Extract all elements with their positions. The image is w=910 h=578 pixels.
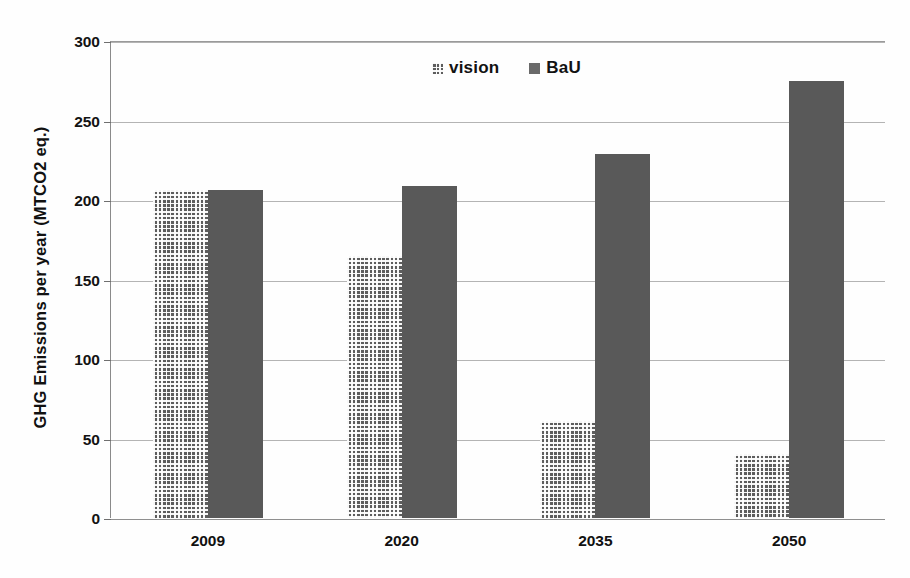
x-tick-label-2020: 2020 — [384, 532, 418, 550]
y-axis-title: GHG Emissions per year (MTCO2 eq.) — [31, 68, 50, 488]
y-tick-label-0: 0 — [91, 510, 100, 528]
y-tick-label-50: 50 — [83, 431, 100, 449]
ghg-emissions-bar-chart: GHG Emissions per year (MTCO2 eq.) 05010… — [0, 0, 910, 578]
plot-area: 050100150200250300 2009202020352050 — [110, 41, 885, 518]
bar-bau-2050 — [789, 81, 844, 518]
y-tick-label-100: 100 — [74, 351, 100, 369]
x-tick-label-2050: 2050 — [772, 532, 806, 550]
chart-legend: vision BaU — [432, 58, 581, 78]
bar-bau-2035 — [595, 154, 650, 518]
y-tick-label-300: 300 — [74, 33, 100, 51]
y-tick-mark-100 — [104, 360, 111, 361]
y-tick-mark-300 — [104, 42, 111, 43]
gridline-300 — [111, 42, 885, 43]
y-tick-mark-50 — [104, 440, 111, 441]
y-tick-mark-150 — [104, 281, 111, 282]
y-tick-label-150: 150 — [74, 272, 100, 290]
legend-swatch-bau-icon — [529, 63, 540, 74]
legend-item-vision: vision — [432, 58, 499, 78]
legend-swatch-vision-icon — [432, 63, 443, 74]
bar-vision-2009 — [153, 190, 208, 518]
y-tick-label-250: 250 — [74, 113, 100, 131]
bar-bau-2009 — [208, 190, 263, 518]
bar-vision-2020 — [347, 256, 402, 518]
gridline-0 — [111, 519, 885, 520]
bar-bau-2020 — [402, 186, 457, 518]
y-tick-label-200: 200 — [74, 192, 100, 210]
bar-vision-2035 — [540, 421, 595, 518]
legend-label-bau: BaU — [546, 58, 581, 78]
x-tick-label-2035: 2035 — [578, 532, 612, 550]
y-tick-mark-200 — [104, 201, 111, 202]
legend-label-vision: vision — [449, 58, 499, 78]
x-tick-label-2009: 2009 — [191, 532, 225, 550]
bar-vision-2050 — [734, 454, 789, 518]
y-tick-mark-0 — [104, 519, 111, 520]
legend-item-bau: BaU — [529, 58, 581, 78]
gridline-250 — [111, 122, 885, 123]
y-tick-mark-250 — [104, 122, 111, 123]
